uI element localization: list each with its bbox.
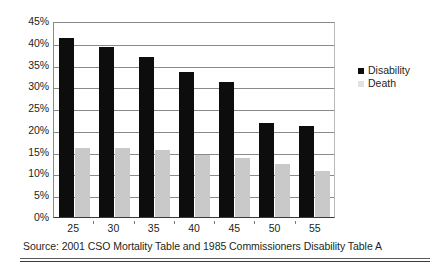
y-axis-tick-label: 30%: [0, 81, 49, 92]
y-axis-tick-label: 45%: [0, 16, 49, 27]
x-axis-tick-mark: [214, 221, 215, 224]
y-axis-tick-label: 40%: [0, 38, 49, 49]
source-note: Source: 2001 CSO Mortality Table and 198…: [23, 240, 382, 253]
bar-death-40: [195, 155, 210, 217]
bar-groups: [54, 23, 334, 217]
y-axis-tick-label: 15%: [0, 147, 49, 158]
x-axis-tick-mark: [295, 221, 296, 224]
x-axis-tick-label: 30: [94, 221, 132, 237]
x-axis-tick-mark: [93, 221, 94, 224]
x-axis-tick-label: 25: [54, 221, 92, 237]
y-axis-tick-label: 20%: [0, 125, 49, 136]
x-axis-tick-mark: [254, 221, 255, 224]
bar-group: [135, 23, 173, 217]
bar-death-35: [155, 150, 170, 217]
y-axis: 0%5%10%15%20%25%30%35%40%45%: [0, 0, 49, 272]
y-axis-tick-label: 25%: [0, 103, 49, 114]
x-axis-tick-mark: [134, 221, 135, 224]
x-axis-tick-mark: [174, 221, 175, 224]
x-axis: 25303540455055: [53, 221, 335, 237]
bar-disability-50: [259, 123, 274, 217]
plot-area: [53, 22, 335, 218]
bar-disability-25: [59, 38, 74, 217]
bar-death-30: [115, 148, 130, 217]
filled-square-icon: [358, 68, 364, 74]
x-axis-tick-label: 50: [256, 221, 294, 237]
bar-group: [95, 23, 133, 217]
legend-item-label: Death: [368, 77, 396, 90]
bar-death-45: [235, 158, 250, 217]
y-axis-tick-label: 35%: [0, 60, 49, 71]
bar-group: [55, 23, 93, 217]
y-axis-tick-label: 5%: [0, 190, 49, 201]
x-axis-tick-label: 40: [175, 221, 213, 237]
bar-death-25: [75, 148, 90, 217]
bar-disability-35: [139, 57, 154, 217]
bar-disability-30: [99, 47, 114, 217]
bar-disability-55: [299, 126, 314, 217]
bar-death-55: [315, 171, 330, 217]
y-axis-tick-label: 0%: [0, 212, 49, 223]
legend-item-disability: Disability: [358, 64, 446, 77]
x-axis-tick-label: 55: [296, 221, 334, 237]
footer-divider: [20, 261, 430, 262]
legend-item-label: Disability: [368, 64, 410, 77]
chart-legend: Disability Death: [358, 64, 446, 90]
x-axis-tick-label: 45: [215, 221, 253, 237]
chart-figure: 0%5%10%15%20%25%30%35%40%45% 25303540455…: [0, 0, 448, 272]
x-axis-tick-label: 35: [135, 221, 173, 237]
bar-disability-45: [219, 82, 234, 217]
bar-death-50: [275, 164, 290, 217]
filled-square-icon: [358, 81, 364, 87]
bar-group: [255, 23, 293, 217]
footer-divider: [20, 258, 430, 259]
y-axis-tick-label: 10%: [0, 168, 49, 179]
bar-disability-40: [179, 72, 194, 217]
bar-group: [295, 23, 333, 217]
bar-group: [215, 23, 253, 217]
bar-group: [175, 23, 213, 217]
legend-item-death: Death: [358, 77, 446, 90]
